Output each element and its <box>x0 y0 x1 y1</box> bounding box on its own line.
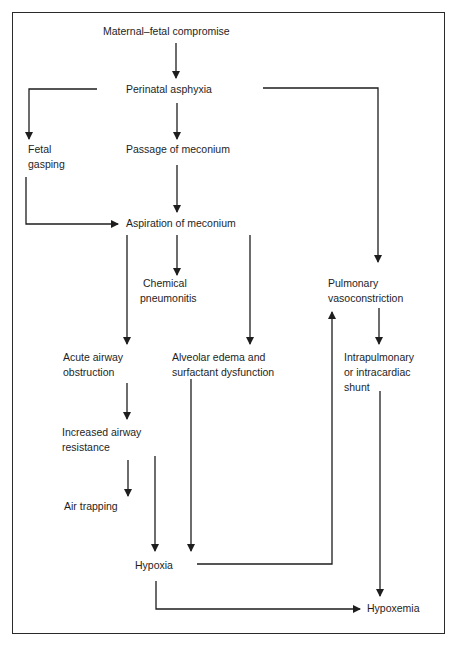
node-passage-of-meconium: Passage of meconium <box>126 142 230 157</box>
node-label: Aspiration of meconium <box>126 216 236 231</box>
node-label: shunt <box>344 380 414 395</box>
node-acute-airway-obstruction: Acute airway obstruction <box>63 350 123 380</box>
node-air-trapping: Air trapping <box>64 499 118 514</box>
node-intrapulmonary-shunt: Intrapulmonary or intracardiac shunt <box>344 350 414 395</box>
edge-asphyxia-gasping <box>29 89 97 139</box>
node-maternal-fetal-compromise: Maternal–fetal compromise <box>103 24 230 39</box>
node-label: Fetal <box>28 142 65 157</box>
node-label: resistance <box>62 440 141 455</box>
edge-hypoxia-hypoxemia <box>156 581 360 609</box>
node-label: Maternal–fetal compromise <box>103 24 230 39</box>
edge-gasping-aspiration <box>26 177 118 224</box>
node-increased-airway-resistance: Increased airway resistance <box>62 425 141 455</box>
node-label: or intracardiac <box>344 365 414 380</box>
node-label: Perinatal asphyxia <box>126 82 212 97</box>
node-label: Alveolar edema and <box>172 350 274 365</box>
node-aspiration-of-meconium: Aspiration of meconium <box>126 216 236 231</box>
node-label: Passage of meconium <box>126 142 230 157</box>
node-perinatal-asphyxia: Perinatal asphyxia <box>126 82 212 97</box>
node-label: vasoconstriction <box>328 291 403 306</box>
node-label: Hypoxemia <box>367 601 420 616</box>
node-label: Increased airway <box>62 425 141 440</box>
node-fetal-gasping: Fetal gasping <box>28 142 65 172</box>
flowchart-canvas: Maternal–fetal compromise Perinatal asph… <box>0 0 460 646</box>
node-hypoxemia: Hypoxemia <box>367 601 420 616</box>
node-chemical-pneumonitis: Chemical pneumonitis <box>140 276 197 306</box>
node-label: surfactant dysfunction <box>172 365 274 380</box>
node-label: obstruction <box>63 365 123 380</box>
node-label: pneumonitis <box>140 291 197 306</box>
node-label: Intrapulmonary <box>344 350 414 365</box>
node-pulmonary-vasoconstriction: Pulmonary vasoconstriction <box>328 276 403 306</box>
connector-layer <box>0 0 460 646</box>
node-label: Chemical <box>140 276 197 291</box>
edge-asphyxia-vasoconstriction <box>263 88 378 262</box>
node-label: gasping <box>28 157 65 172</box>
node-label: Air trapping <box>64 499 118 514</box>
node-label: Pulmonary <box>328 276 403 291</box>
node-alveolar-edema: Alveolar edema and surfactant dysfunctio… <box>172 350 274 380</box>
node-hypoxia: Hypoxia <box>135 558 173 573</box>
node-label: Acute airway <box>63 350 123 365</box>
node-label: Hypoxia <box>135 558 173 573</box>
